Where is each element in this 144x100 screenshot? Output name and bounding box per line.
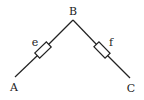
node-label-b: B	[69, 5, 77, 18]
node-label-a: A	[9, 81, 19, 94]
wire-e-to-b	[48, 20, 73, 45]
resistor-label-f: f	[109, 36, 114, 49]
wire-a-to-e	[15, 55, 38, 77]
resistor-f	[94, 42, 110, 58]
wire-b-to-f	[73, 20, 97, 45]
wires	[15, 20, 130, 78]
node-label-c: C	[127, 82, 135, 95]
wire-f-to-c	[107, 55, 130, 78]
resistor-f-body	[94, 42, 110, 58]
resistor-label-e: e	[32, 36, 39, 49]
circuit-diagram: A B C e f	[0, 0, 144, 100]
